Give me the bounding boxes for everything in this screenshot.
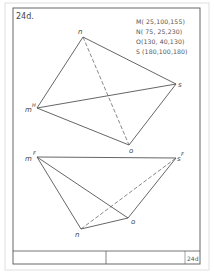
coord-S: S (180,100,180) [136, 48, 188, 55]
label-s-top: s [178, 81, 182, 89]
coord-O: O(130, 40,130) [136, 38, 185, 45]
label-s-front-sup: F [181, 151, 184, 157]
label-m-top: m [25, 106, 32, 114]
edge-os-front [128, 158, 176, 218]
edge-om-top [37, 108, 129, 145]
edge-ms-top [37, 84, 176, 108]
title-block-tag: 24d [187, 255, 199, 262]
label-n-top: n [78, 28, 82, 36]
edge-mn-front [37, 157, 81, 229]
edge-mn-top [37, 37, 83, 108]
coord-M: M( 25,100,155) [136, 18, 185, 25]
label-m-top-sup: H [32, 102, 36, 108]
edge-mo-front [37, 157, 128, 218]
orthographic-drawing: 24d 24d. M( 25,100,155) N( 75, 25,230) O… [0, 0, 214, 274]
label-n-front: n [75, 231, 79, 239]
label-o-top: o [129, 147, 133, 155]
edge-ns-front-hidden [81, 158, 176, 229]
edge-so-top [129, 84, 176, 145]
edge-ms-front [37, 157, 176, 158]
label-m-front: m [25, 155, 32, 163]
coord-N: N( 75, 25,230) [136, 28, 182, 35]
sheet-title: 24d. [16, 12, 34, 21]
label-m-front-sup: F [33, 150, 36, 156]
label-o-front: o [131, 218, 135, 226]
front-view [37, 157, 176, 229]
